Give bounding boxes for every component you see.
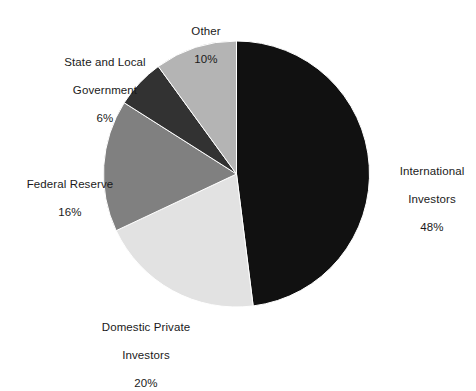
- pie-label-state-and-local-government-name-line2: Government: [32, 83, 178, 97]
- pie-label-federal-reserve: Federal Reserve 16%: [6, 163, 134, 233]
- pie-label-domestic-private-investors: Domestic Private Investors 20%: [78, 306, 214, 391]
- pie-label-state-and-local-government: State and Local Government 6%: [32, 41, 178, 139]
- pie-label-other-name: Other: [148, 24, 264, 38]
- pie-label-international-investors: International Investors 48%: [388, 150, 476, 248]
- pie-label-international-investors-name-line2: Investors: [388, 192, 476, 206]
- pie-label-international-investors-name-line1: International: [388, 164, 476, 178]
- pie-label-state-and-local-government-percent: 6%: [32, 111, 178, 125]
- pie-label-domestic-private-investors-percent: 20%: [78, 376, 214, 390]
- pie-label-domestic-private-investors-name-line2: Investors: [78, 348, 214, 362]
- pie-label-federal-reserve-name: Federal Reserve: [6, 177, 134, 191]
- pie-label-domestic-private-investors-name-line1: Domestic Private: [78, 320, 214, 334]
- pie-label-international-investors-percent: 48%: [388, 220, 476, 234]
- pie-slice-international-investors: [237, 41, 370, 306]
- pie-label-state-and-local-government-name-line1: State and Local: [32, 55, 178, 69]
- pie-label-federal-reserve-percent: 16%: [6, 205, 134, 219]
